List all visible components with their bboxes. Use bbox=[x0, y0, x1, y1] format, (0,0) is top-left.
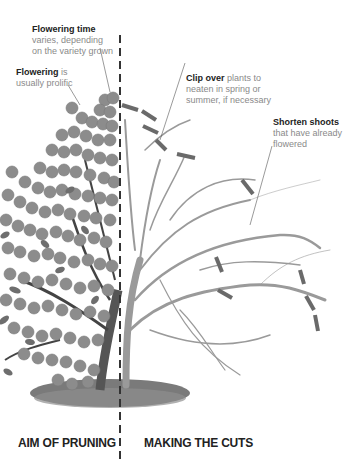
annotation-shorten-shoots: Shorten shoots that have already flowere… bbox=[273, 117, 342, 150]
caption-aim-of-pruning: AIM OF PRUNING bbox=[18, 436, 116, 450]
annotation-clip-over: Clip over plants to neaten in spring or … bbox=[186, 73, 271, 106]
annotation-shorten-shoots-title: Shorten shoots bbox=[273, 117, 339, 127]
annotation-flowering: Flowering is usually prolific bbox=[16, 67, 73, 89]
annotation-flowering-time-title: Flowering time bbox=[32, 24, 96, 34]
caption-making-the-cuts: MAKING THE CUTS bbox=[144, 436, 253, 450]
bare-tree bbox=[125, 120, 330, 385]
annotation-flowering-time: Flowering time varies, depending on the … bbox=[32, 24, 113, 57]
flowering-tree bbox=[0, 92, 120, 390]
annotation-flowering-title: Flowering bbox=[16, 67, 59, 77]
annotation-clip-over-title: Clip over bbox=[186, 73, 225, 83]
